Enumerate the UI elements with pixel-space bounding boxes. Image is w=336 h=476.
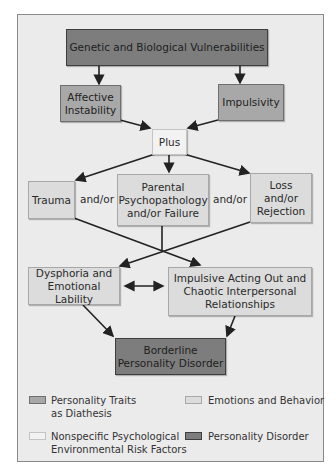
- legend-swatch-traits: [29, 396, 46, 404]
- node-label: Plus: [159, 136, 180, 149]
- node-plus: Plus: [152, 129, 187, 155]
- legend-label-line: as Diathesis: [51, 407, 136, 420]
- node-loss-rejection: Loss and/or Rejection: [250, 173, 312, 223]
- node-affective-instability: Affective Instability: [60, 85, 121, 122]
- node-label: Genetic and Biological Vulnerabilities: [69, 41, 264, 54]
- legend-label-line: Personality Disorder: [208, 430, 309, 443]
- node-label: Loss and/or Rejection: [251, 179, 311, 218]
- node-label: Parental Psychopathology and/or Failure: [118, 181, 208, 220]
- legend-label-disorder: Personality Disorder: [208, 430, 309, 443]
- legend-swatch-emotions: [185, 396, 202, 404]
- node-label: Trauma: [32, 194, 71, 207]
- legend-label-traits: Personality Traits as Diathesis: [51, 394, 136, 420]
- node-label: Impulsive Acting Out and Chaotic Interpe…: [169, 272, 311, 311]
- legend-label-line: Emotions and Behavior: [208, 394, 324, 407]
- legend-swatch-disorder: [185, 432, 202, 440]
- node-impulsivity: Impulsivity: [218, 84, 284, 121]
- legend-label-emotions: Emotions and Behavior: [208, 394, 324, 407]
- legend-label-line: Nonspecific Psychological: [51, 430, 187, 443]
- node-trauma: Trauma: [28, 181, 75, 219]
- node-borderline-personality-disorder: Borderline Personality Disorder: [115, 338, 226, 375]
- node-parental-psychopathology: Parental Psychopathology and/or Failure: [117, 174, 209, 226]
- node-label: Impulsivity: [222, 96, 279, 109]
- legend-label-line: Environmental Risk Factors: [51, 443, 187, 456]
- and-or-left: and/or: [80, 193, 114, 205]
- legend-label-nonspecific: Nonspecific Psychological Environmental …: [51, 430, 187, 456]
- node-label: Dysphoria and Emotional Lability: [29, 267, 119, 306]
- node-genetic-vulnerabilities: Genetic and Biological Vulnerabilities: [66, 29, 268, 66]
- legend-swatch-nonspecific: [29, 432, 46, 440]
- node-label: Borderline Personality Disorder: [116, 344, 225, 370]
- node-dysphoria: Dysphoria and Emotional Lability: [28, 267, 120, 305]
- and-or-right: and/or: [213, 193, 247, 205]
- node-impulsive-acting: Impulsive Acting Out and Chaotic Interpe…: [168, 267, 312, 316]
- legend-label-line: Personality Traits: [51, 394, 136, 407]
- node-label: Affective Instability: [61, 91, 120, 117]
